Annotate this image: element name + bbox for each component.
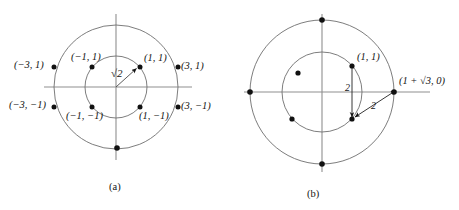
dot-bottom-axis [114, 145, 120, 151]
figure-container: (−3, 1) (−1, 1) (1, 1) (3, 1) (−3, −1) (… [0, 0, 459, 210]
dot-b-inner-lower-left [289, 116, 294, 121]
label-minus3-1: (−3, 1) [14, 60, 44, 71]
dot-b-outer-left [247, 89, 253, 95]
caption-panel-a: (a) [109, 182, 121, 193]
label-minus3-minus1: (−3, −1) [9, 100, 46, 111]
panel-b-graphics [244, 14, 430, 172]
panel-a-graphics [44, 14, 192, 160]
dot-minus3-1 [52, 65, 57, 70]
label-minus1-1: (−1, 1) [71, 52, 101, 63]
dot-b-outer-right [391, 89, 397, 95]
dot-b-outer-top [319, 17, 325, 23]
label-minus1-minus1: (−1, −1) [66, 111, 103, 122]
dot-minus1-1 [90, 65, 95, 70]
label-3-minus1: (3, −1) [181, 101, 211, 112]
figure-vector-graphics [0, 0, 459, 210]
label-1-1: (1, 1) [144, 53, 167, 64]
caption-panel-b: (b) [307, 189, 319, 200]
dot-1-minus1 [138, 105, 143, 110]
label-b-distance-diagonal: 2 [371, 101, 376, 111]
label-1-minus1: (1, −1) [139, 111, 169, 122]
label-b-point-1-1: (1, 1) [357, 52, 380, 63]
dot-minus3-minus1 [52, 105, 57, 110]
dot-1-1 [138, 65, 143, 70]
label-sqrt2-radius: √2 [111, 68, 123, 79]
label-3-1: (3, 1) [181, 61, 204, 72]
dot-3-1 [176, 65, 181, 70]
dot-b-outer-bottom [319, 161, 325, 167]
dot-b-inner-upper-left [295, 70, 300, 75]
dot-b-inner-upper-right [349, 63, 354, 68]
label-b-distance-vertical: 2 [345, 83, 350, 93]
dot-3-minus1 [176, 105, 181, 110]
dot-minus1-minus1 [90, 105, 95, 110]
label-b-axis-point: (1 + √3, 0) [399, 76, 445, 87]
dot-b-inner-lower-right [349, 116, 354, 121]
